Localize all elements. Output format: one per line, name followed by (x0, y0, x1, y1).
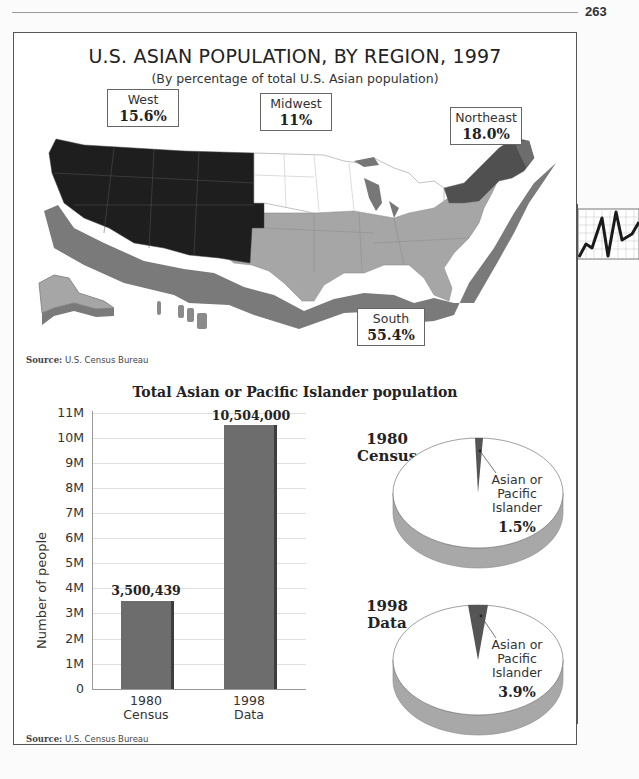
region-label-midwest: Midwest 11% (260, 93, 332, 131)
source-label: Source: (26, 355, 62, 365)
figure-frame: U.S. ASIAN POPULATION, BY REGION, 1997 (… (13, 32, 577, 745)
pie-label-line: Islander (492, 665, 542, 680)
y-tick: 11M (44, 405, 84, 420)
pie-label: Asian or Pacific Islander (477, 473, 557, 515)
pie-label-line: Islander (492, 500, 542, 515)
region-percentage: 11% (261, 112, 331, 128)
region-name: West (108, 92, 178, 108)
y-tick: 0 (44, 681, 84, 696)
y-tick: 10M (44, 430, 84, 445)
y-tick: 8M (44, 480, 84, 495)
top-rule (12, 12, 578, 13)
y-tick: 3M (44, 605, 84, 620)
source-label: Source: (26, 734, 62, 744)
side-decoration (577, 204, 639, 724)
pie-percentage: 3.9% (477, 684, 557, 700)
pie-label-line: Asian or (492, 637, 543, 652)
y-tick: 6M (44, 530, 84, 545)
bar-1980-census (121, 601, 171, 689)
y-tick: 7M (44, 505, 84, 520)
map-source: Source: U.S. Census Bureau (26, 355, 148, 365)
population-source: Source: U.S. Census Bureau (26, 734, 148, 744)
region-name: South (358, 311, 424, 327)
y-tick: 2M (44, 631, 84, 646)
y-tick: 4M (44, 580, 84, 595)
x-category-line: Census (123, 707, 168, 722)
region-label-south: South 55.4% (357, 308, 425, 346)
x-category-line: Data (234, 707, 264, 722)
page-number: 263 (585, 4, 607, 19)
x-category: 1980 Census (106, 694, 186, 722)
region-name: Midwest (261, 96, 331, 112)
line-chart-icon (578, 204, 639, 264)
region-label-west: West 15.6% (107, 89, 179, 127)
source-text: U.S. Census Bureau (65, 734, 149, 744)
x-category: 1998 Data (209, 694, 289, 722)
source-text: U.S. Census Bureau (65, 355, 149, 365)
pie-percentage: 1.5% (477, 519, 557, 535)
region-percentage: 15.6% (108, 108, 178, 124)
bar-1998-data (224, 425, 274, 689)
region-percentage: 18.0% (451, 126, 521, 142)
x-category-line: 1998 (233, 693, 265, 708)
pie-label-line: Pacific (497, 486, 537, 501)
region-midwest (254, 153, 444, 218)
y-tick: 5M (44, 555, 84, 570)
population-title: Total Asian or Pacific Islander populati… (14, 384, 576, 400)
bar-value-label: 3,500,439 (101, 583, 191, 598)
region-percentage: 55.4% (358, 327, 424, 343)
pie-label-line: Asian or (492, 472, 543, 487)
region-name: Northeast (451, 110, 521, 126)
pie-label-line: Pacific (497, 651, 537, 666)
x-category-line: 1980 (130, 693, 162, 708)
us-region-map (14, 33, 576, 333)
pie-label: Asian or Pacific Islander (477, 638, 557, 680)
y-tick: 9M (44, 455, 84, 470)
y-tick: 1M (44, 656, 84, 671)
y-axis (92, 411, 93, 690)
region-label-northeast: Northeast 18.0% (450, 107, 522, 145)
x-axis (92, 689, 306, 690)
bar-value-label: 10,504,000 (206, 408, 296, 423)
